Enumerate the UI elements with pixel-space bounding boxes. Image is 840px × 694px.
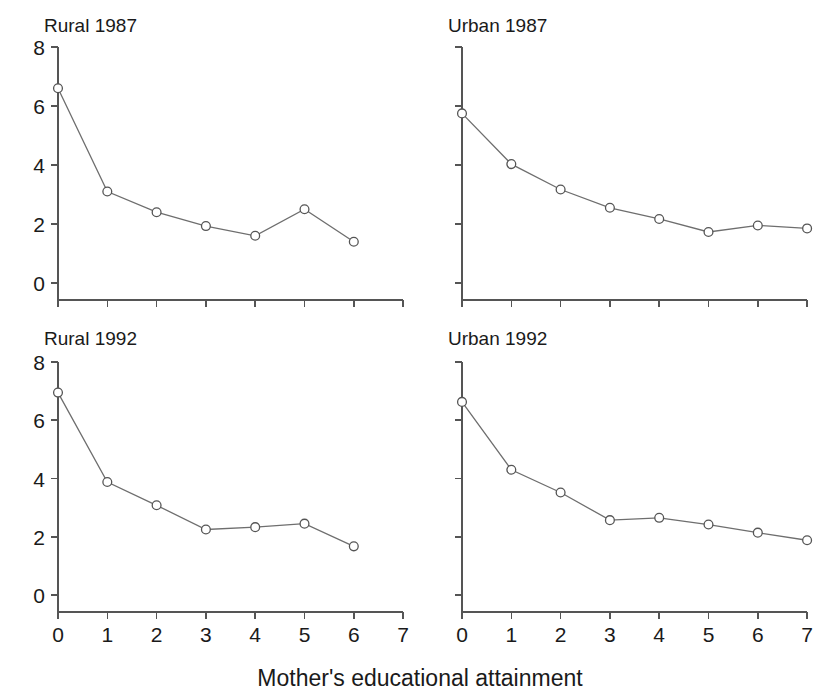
- data-point-marker: [507, 160, 516, 169]
- series-line: [58, 88, 354, 241]
- data-point-marker: [251, 231, 260, 240]
- data-point-marker: [556, 488, 565, 497]
- x-tick-label: 3: [604, 623, 616, 646]
- data-point-marker: [606, 516, 615, 525]
- data-point-marker: [300, 519, 309, 528]
- data-point-marker: [103, 478, 112, 487]
- panel-title: Rural 1987: [44, 15, 137, 36]
- y-tick-label: 0: [33, 272, 45, 295]
- y-tick-label: 2: [33, 213, 45, 236]
- x-tick-label: 6: [348, 623, 360, 646]
- data-point-marker: [202, 222, 211, 231]
- x-axis-title: Mother's educational attainment: [257, 665, 583, 691]
- panel-title: Urban 1992: [448, 328, 547, 349]
- data-point-marker: [251, 523, 260, 532]
- y-tick-label: 6: [33, 95, 45, 118]
- x-tick-label: 6: [752, 623, 764, 646]
- y-tick-label: 4: [33, 468, 45, 491]
- data-point-marker: [300, 205, 309, 214]
- panel-title: Urban 1987: [448, 15, 547, 36]
- y-tick-label: 2: [33, 526, 45, 549]
- data-point-marker: [202, 525, 211, 534]
- data-point-marker: [753, 221, 762, 230]
- x-tick-label: 0: [52, 623, 64, 646]
- y-tick-label: 8: [33, 351, 45, 374]
- data-point-marker: [349, 542, 358, 551]
- data-point-marker: [458, 109, 467, 118]
- panel-rural-1992: 0246801234567Rural 1992: [33, 328, 409, 646]
- panel-urban-1987: Urban 1987: [448, 15, 811, 307]
- data-point-marker: [507, 465, 516, 474]
- data-point-marker: [152, 501, 161, 510]
- data-point-marker: [458, 398, 467, 407]
- y-tick-label: 0: [33, 584, 45, 607]
- x-tick-label: 2: [151, 623, 163, 646]
- x-tick-label: 2: [555, 623, 567, 646]
- chart-figure: 02468Rural 1987Urban 19870246801234567Ru…: [0, 0, 840, 694]
- data-point-marker: [54, 388, 63, 397]
- panel-rural-1987: 02468Rural 1987: [33, 15, 403, 307]
- x-tick-label: 4: [249, 623, 261, 646]
- series-line: [462, 113, 807, 232]
- data-point-marker: [704, 228, 713, 237]
- x-tick-label: 0: [456, 623, 468, 646]
- data-point-marker: [54, 84, 63, 93]
- data-point-marker: [556, 185, 565, 194]
- data-point-marker: [803, 224, 812, 233]
- data-point-marker: [655, 215, 664, 224]
- x-tick-label: 3: [200, 623, 212, 646]
- data-point-marker: [349, 237, 358, 246]
- x-tick-label: 1: [505, 623, 517, 646]
- y-tick-label: 6: [33, 409, 45, 432]
- x-tick-label: 4: [653, 623, 665, 646]
- panel-urban-1992: 01234567Urban 1992: [448, 328, 813, 646]
- x-tick-label: 5: [703, 623, 715, 646]
- x-tick-label: 5: [299, 623, 311, 646]
- chart-canvas: 02468Rural 1987Urban 19870246801234567Ru…: [0, 0, 840, 694]
- data-point-marker: [753, 528, 762, 537]
- x-tick-label: 7: [801, 623, 813, 646]
- panel-title: Rural 1992: [44, 328, 137, 349]
- data-point-marker: [803, 536, 812, 545]
- data-point-marker: [704, 520, 713, 529]
- x-tick-label: 7: [397, 623, 409, 646]
- data-point-marker: [655, 513, 664, 522]
- data-point-marker: [103, 187, 112, 196]
- y-tick-label: 8: [33, 36, 45, 59]
- data-point-marker: [152, 208, 161, 217]
- y-tick-label: 4: [33, 154, 45, 177]
- data-point-marker: [606, 203, 615, 212]
- x-tick-label: 1: [101, 623, 113, 646]
